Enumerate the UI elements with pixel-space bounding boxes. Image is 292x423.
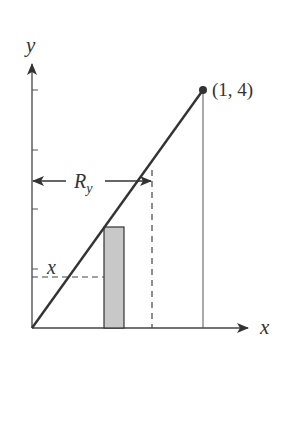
- endpoint-dot: [199, 86, 207, 94]
- y-axis-ticks: [32, 90, 38, 269]
- radius-label: Ry: [73, 170, 93, 196]
- x-axis-label: x: [259, 315, 270, 339]
- y-axis-label: y: [24, 33, 36, 57]
- point-label: (1, 4): [212, 79, 253, 101]
- level-label: x: [46, 256, 56, 278]
- shaded-strip: [104, 227, 124, 328]
- diagram-canvas: y x (1, 4) Ry x: [0, 0, 292, 423]
